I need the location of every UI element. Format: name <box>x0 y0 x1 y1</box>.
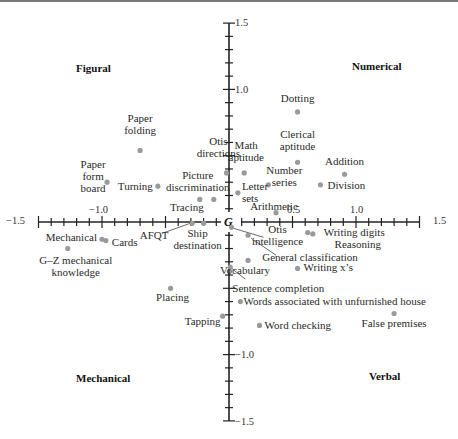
data-point-general-classification <box>245 233 250 238</box>
data-point-otis-intelligence <box>229 225 234 230</box>
point-label-cards: Cards <box>112 236 138 248</box>
point-label-tracing: Tracing <box>170 201 204 213</box>
point-label-paper-folding: Paperfolding <box>124 112 156 136</box>
point-label-sentence-completion: Sentence completion <box>232 282 324 294</box>
data-point-writing-digits <box>305 230 310 235</box>
point-label-otis-intelligence: Otisintelligence <box>252 223 303 247</box>
point-label-ship-destination: Shipdestination <box>173 227 222 251</box>
x-tick-label-neg1.0: −1.0 <box>89 204 108 215</box>
point-label-false-premises: False premises <box>362 317 427 329</box>
x-tick-label-1.0: 1.0 <box>350 204 363 215</box>
point-label-tapping: Tapping <box>185 315 221 327</box>
data-point-paper-folding <box>138 148 143 153</box>
quadrant-label-verbal: Verbal <box>369 370 400 382</box>
data-point-picture-discrimination <box>211 197 216 202</box>
data-point-vocabulary <box>245 258 250 263</box>
point-label-clerical-aptitude: Clericalaptitude <box>280 128 316 152</box>
data-point-afqt <box>190 221 195 226</box>
point-label-number-series: Numberseries <box>266 164 302 188</box>
point-label-division: Division <box>327 179 365 191</box>
point-label-words-associated-with-unfurnished-house: Words associated with unfurnished house <box>243 295 426 307</box>
data-point-word-checking <box>257 323 262 328</box>
data-point-letter-sets <box>235 190 240 195</box>
data-point-g-z-mechanical-knowledge <box>65 246 70 251</box>
point-label-turning: Turning <box>118 180 154 192</box>
point-label-paper-form-board: Paperformboard <box>81 158 107 194</box>
data-point-words-associated-with-unfurnished-house <box>238 299 243 304</box>
y-tick-label-neg1.5: −1.5 <box>235 416 254 427</box>
point-label-g-z-mechanical-knowledge: G–Z mechanicalknowledge <box>39 254 112 278</box>
data-point-cards <box>103 238 108 243</box>
y-tick-label-1.5: 1.5 <box>235 17 248 28</box>
point-label-reasoning: Reasoning <box>335 238 382 250</box>
data-point-dotting <box>295 109 300 114</box>
point-label-addition: Addition <box>325 155 365 167</box>
data-point-otis-directions <box>224 170 229 175</box>
y-tick-label-neg1.0: −1.0 <box>235 349 254 360</box>
data-point-turning <box>155 184 160 189</box>
data-point-division <box>318 182 323 187</box>
data-point-false-premises <box>392 311 397 316</box>
y-tick-label-1.0: 1.0 <box>235 84 248 95</box>
quadrant-label-mechanical: Mechanical <box>76 372 130 384</box>
point-label-vocabulary: Vocabulary <box>220 264 270 276</box>
point-label-picture-discrimination: Picturediscrimination <box>166 169 230 193</box>
x-tick-label-neg1.5: −1.5 <box>6 215 25 226</box>
data-point-placing <box>168 286 173 291</box>
quadrant-label-numerical: Numerical <box>352 60 401 72</box>
quadrant-label-figural: Figural <box>76 62 111 74</box>
data-point-ship-destination <box>201 221 206 226</box>
x-tick-label-1.5: 1.5 <box>433 215 446 226</box>
data-point-addition <box>342 172 347 177</box>
point-label-dotting: Dotting <box>281 92 315 104</box>
point-label-afqt: AFQT <box>140 229 169 241</box>
point-label-word-checking: Word checking <box>264 319 331 331</box>
point-label-mechanical: Mechanical <box>46 231 97 243</box>
figure-caption-cutoff <box>20 430 440 439</box>
point-label-arithmetic: Arithmetic <box>250 200 298 212</box>
scatter-plot: Figural Numerical Mechanical Verbal −1.5… <box>0 0 458 439</box>
data-point-math-aptitude <box>242 170 247 175</box>
point-label-writing-x-s: Writing x’s <box>304 261 353 273</box>
data-point-tapping <box>220 314 225 319</box>
data-point-writing-x-s <box>295 266 300 271</box>
point-label-placing: Placing <box>156 291 189 303</box>
point-label-writing-digits: Writing digits <box>324 226 385 238</box>
data-point-reasoning <box>310 231 315 236</box>
